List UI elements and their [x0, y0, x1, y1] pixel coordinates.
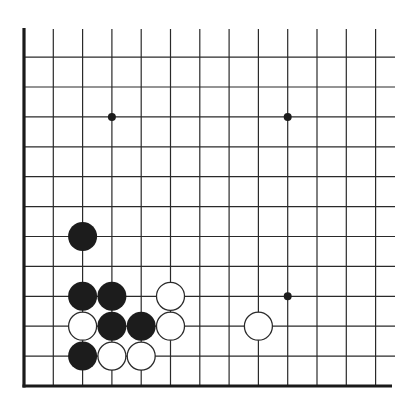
star-point-icon: [284, 292, 292, 300]
white-stone-icon: [127, 342, 155, 370]
star-point-icon: [284, 113, 292, 121]
black-stone-icon: [68, 282, 97, 311]
black-stone-icon: [97, 312, 126, 341]
black-stone-icon: [68, 342, 97, 371]
black-stone-icon: [68, 222, 97, 251]
star-point-icon: [108, 113, 116, 121]
go-board: [0, 0, 416, 415]
black-stone-icon: [97, 282, 126, 311]
white-stone-icon: [69, 312, 97, 340]
black-stone-icon: [127, 312, 156, 341]
white-stone-icon: [98, 342, 126, 370]
white-stone-icon: [244, 312, 272, 340]
white-stone-icon: [157, 312, 185, 340]
white-stone-icon: [157, 282, 185, 310]
